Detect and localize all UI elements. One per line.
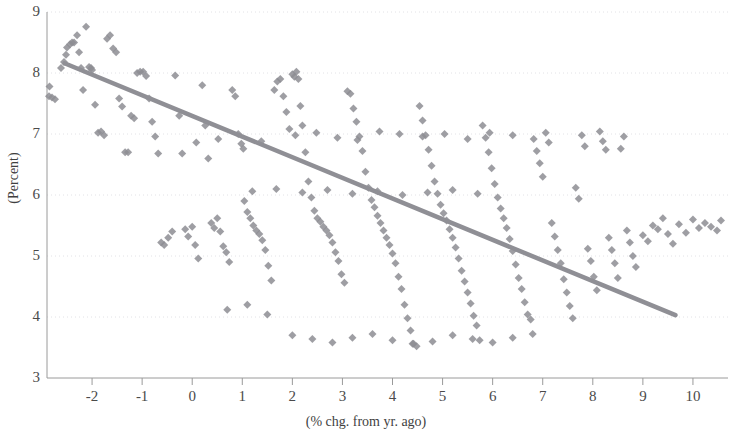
y-tick-label: 8 bbox=[18, 65, 40, 80]
gridlines bbox=[47, 12, 728, 317]
y-tick-label: 3 bbox=[18, 370, 40, 385]
x-tick-label: 2 bbox=[275, 389, 309, 404]
x-tick-label: 5 bbox=[426, 389, 460, 404]
plot-area bbox=[0, 0, 732, 438]
x-tick-label: 10 bbox=[676, 389, 710, 404]
x-tick-label: 8 bbox=[576, 389, 610, 404]
x-tick-label: 3 bbox=[325, 389, 359, 404]
x-tick-label: -2 bbox=[75, 389, 109, 404]
y-axis-title: (Percent) bbox=[6, 118, 22, 238]
trendline bbox=[65, 63, 676, 315]
x-tick-label: 9 bbox=[626, 389, 660, 404]
scatter-points bbox=[45, 23, 725, 351]
x-tick-label: 4 bbox=[376, 389, 410, 404]
y-tick-label: 4 bbox=[18, 309, 40, 324]
x-axis-title: (% chg. from yr. ago) bbox=[0, 414, 732, 430]
y-tick-label: 9 bbox=[18, 4, 40, 19]
x-tick-label: 1 bbox=[225, 389, 259, 404]
x-tick-label: 0 bbox=[175, 389, 209, 404]
x-tick-label: 6 bbox=[476, 389, 510, 404]
x-tick-marks bbox=[92, 378, 693, 385]
x-tick-label: 7 bbox=[526, 389, 560, 404]
y-tick-label: 5 bbox=[18, 248, 40, 263]
scatter-chart: 3456789 -2-1012345678910 (% chg. from yr… bbox=[0, 0, 732, 438]
x-tick-label: -1 bbox=[125, 389, 159, 404]
